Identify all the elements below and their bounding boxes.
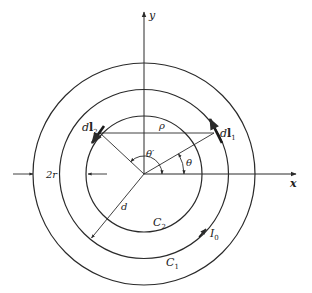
rho-label: ρ <box>158 120 165 131</box>
two-loop-current-diagram: y x ρ dl1 dl2 θ′ θ d 2r C2 C1 I0 <box>0 0 312 293</box>
theta-arc <box>179 154 185 174</box>
radius-to-dl1 <box>144 133 214 174</box>
d-label: d <box>121 201 127 212</box>
d-radius-line <box>92 174 145 238</box>
radius-to-dl2 <box>100 133 144 174</box>
c2-label: C2 <box>153 216 166 231</box>
y-axis-label: y <box>148 9 156 22</box>
c1-label: C1 <box>166 256 179 271</box>
dl2-label: dl2 <box>82 121 98 136</box>
theta-prime-label: θ′ <box>146 148 155 159</box>
two-r-label: 2r <box>45 169 58 180</box>
dl1-label: dl1 <box>220 127 236 142</box>
x-axis-label: x <box>289 177 297 190</box>
current-label: I0 <box>209 227 219 242</box>
theta-label: θ <box>186 157 192 168</box>
